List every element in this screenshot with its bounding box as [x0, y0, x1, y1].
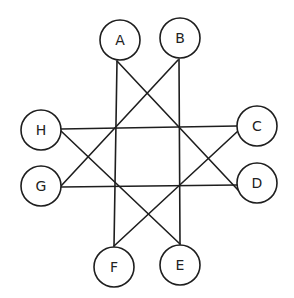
- nodes: ABCDEFGH: [21, 18, 277, 287]
- node-label: E: [176, 257, 185, 273]
- edges: [61, 59, 238, 246]
- node-label: B: [175, 30, 185, 46]
- node-a: A: [100, 20, 140, 60]
- graph-diagram: ABCDEFGH: [0, 0, 294, 298]
- node-label: H: [36, 122, 47, 138]
- node-g: G: [21, 166, 61, 206]
- node-label: D: [252, 175, 263, 191]
- node-d: D: [237, 163, 277, 203]
- node-label: A: [115, 32, 125, 48]
- node-b: B: [160, 18, 200, 58]
- node-label: F: [110, 259, 118, 275]
- edge-b-e: [179, 59, 180, 244]
- node-label: G: [36, 178, 47, 194]
- node-label: C: [252, 118, 262, 134]
- node-f: F: [94, 247, 134, 287]
- node-h: H: [21, 110, 61, 150]
- edge-b-g: [61, 60, 178, 186]
- node-e: E: [160, 245, 200, 285]
- edge-h-c: [61, 126, 237, 129]
- edge-g-d: [61, 185, 237, 187]
- edge-c-f: [114, 131, 238, 246]
- node-c: C: [237, 106, 277, 146]
- edge-a-f: [114, 61, 117, 246]
